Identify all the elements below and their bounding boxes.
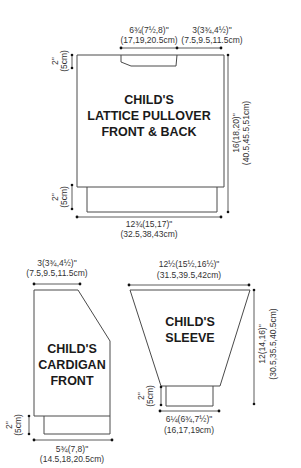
- cardigan-schematic: 3(3¾,4½)" (7.5,9.5,11.5cm) 2" (5cm) 5¾(7…: [4, 258, 113, 464]
- cardigan-title-line-3: FRONT: [50, 374, 93, 388]
- pullover-title-line-2: LATTICE PULLOVER: [87, 109, 210, 123]
- pullover-neck-imperial: 6¾(7½,8)": [129, 25, 168, 35]
- cardigan-width-metric: (14.5,18,20.5cm): [40, 454, 104, 464]
- sleeve-cuff-depth-metric: (5cm): [145, 385, 155, 407]
- sleeve-cuff-outline: [166, 386, 213, 406]
- sleeve-schematic: 12½(15½,16½)" (31.5,39.5,42cm) 12(14,16)…: [128, 259, 278, 435]
- pullover-schematic: 6¾(7½,8)" (17,19,20.5cm) 3(3¾,4½)" (7.5,…: [50, 25, 251, 239]
- cardigan-shoulder-metric: (7.5,9.5,11.5cm): [26, 268, 87, 278]
- cardigan-width-imperial: 5¾(7,8)": [56, 444, 88, 454]
- pullover-length-imperial: 16(18,20)": [231, 113, 241, 152]
- sleeve-cuff-width-imperial: 6¼(6¾,7½)": [166, 414, 213, 424]
- pullover-neck-metric: (17,19,20.5cm): [120, 35, 177, 45]
- pullover-shoulder-metric: (7.5,9.5,11.5cm): [181, 35, 242, 45]
- cardigan-ribbing-outline: [44, 416, 110, 434]
- pullover-ribbing-outline: [87, 187, 217, 212]
- sleeve-cuff-width-metric: (16,17,19cm): [164, 425, 214, 435]
- cardigan-title-line-2: CARDIGAN: [38, 358, 105, 372]
- pullover-ribbing-metric: (5cm): [59, 186, 69, 208]
- sleeve-length-metric: (30.5,35.5,40.5cm): [268, 308, 278, 380]
- cardigan-shoulder-imperial: 3(3¾,4½)": [37, 258, 76, 268]
- sleeve-title-line-2: SLEEVE: [165, 331, 214, 345]
- knitting-schematic: 6¾(7½,8)" (17,19,20.5cm) 3(3¾,4½)" (7.5,…: [0, 0, 301, 468]
- pullover-width-metric: (32.5,38,43cm): [120, 229, 177, 239]
- pullover-length-metric: (40.5,45.5,51cm): [241, 101, 251, 165]
- pullover-neckline: [121, 55, 177, 66]
- sleeve-top-metric: (31.5,39.5,42cm): [157, 270, 221, 280]
- sleeve-top-imperial: 12½(15½,16½)": [159, 259, 220, 269]
- cardigan-ribbing-metric: (5cm): [13, 414, 23, 436]
- pullover-title-line-1: CHILD'S: [124, 93, 174, 107]
- pullover-armhole-metric: (5cm): [59, 50, 69, 72]
- pullover-width-imperial: 12¾(15,17)": [126, 219, 173, 229]
- pullover-title-line-3: FRONT & BACK: [101, 125, 196, 139]
- sleeve-title-line-1: CHILD'S: [165, 315, 215, 329]
- pullover-shoulder-imperial: 3(3¾,4½)": [192, 25, 231, 35]
- cardigan-title-line-1: CHILD'S: [47, 342, 97, 356]
- sleeve-length-imperial: 12(14,16)": [257, 324, 267, 363]
